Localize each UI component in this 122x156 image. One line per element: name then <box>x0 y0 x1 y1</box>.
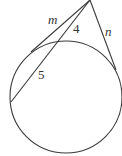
label-m: m <box>48 13 57 26</box>
diagram-svg <box>0 0 122 156</box>
tangent-line-m <box>31 0 90 52</box>
tangent-line-n <box>90 0 116 70</box>
label-5: 5 <box>38 68 45 81</box>
circle <box>10 41 122 153</box>
tangent-secant-diagram: m 4 n 5 <box>0 0 122 156</box>
label-4: 4 <box>73 22 80 35</box>
label-n: n <box>105 25 112 38</box>
